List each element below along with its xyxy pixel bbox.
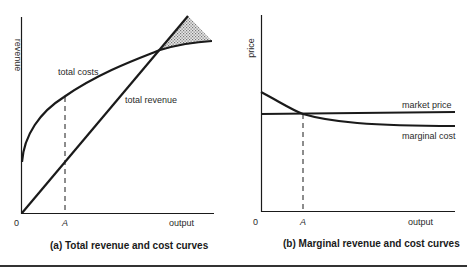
x-axis-label-b: output [408, 217, 434, 227]
marginal-cost-label: marginal cost [402, 131, 456, 141]
panel-a: revenue total costs total revenue 0 A ou… [13, 16, 214, 251]
total-revenue-label: total revenue [125, 95, 177, 105]
caption-a: (a) Total revenue and cost curves [50, 240, 209, 251]
market-price-label: market price [402, 100, 452, 110]
total-revenue-curve [22, 16, 188, 213]
market-price-line [261, 112, 455, 114]
origin-label-b: 0 [253, 217, 258, 227]
tick-label-a-panel-a: A [61, 218, 68, 228]
y-axis-label-a: revenue [13, 39, 23, 72]
caption-b: (b) Marginal revenue and cost curves [283, 238, 460, 249]
origin-label-a: 0 [14, 218, 19, 228]
x-axis-label-a: output [169, 218, 195, 228]
total-costs-label: total costs [58, 67, 99, 77]
diagram-canvas: revenue total costs total revenue 0 A ou… [0, 0, 467, 272]
tick-label-a-panel-b: A [299, 217, 306, 227]
panel-b: price market price marginal cost 0 A out… [246, 15, 460, 249]
bottom-rule [0, 265, 467, 267]
y-axis-label-b: price [246, 38, 256, 58]
